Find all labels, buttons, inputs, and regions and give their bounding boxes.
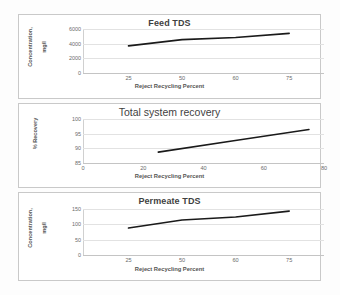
x-axis-tick-label: 0 (81, 165, 84, 171)
y-axis-tick-label: 100 (72, 221, 81, 227)
y-axis-label-total-system-recovery: % Recovery (32, 111, 39, 155)
x-axis-label-permeate-tds: Reject Recycling Percent (19, 266, 320, 272)
chart-title-total-system-recovery: Total system recovery (19, 106, 320, 118)
data-line (129, 211, 290, 228)
x-axis-line (83, 73, 324, 74)
series-line-feed-tds (83, 29, 324, 73)
plot-area-total-system-recovery: 859095100020406080 (83, 119, 324, 163)
y-axis-tick-label: 50 (75, 237, 81, 243)
y-axis-tick-label: 0 (78, 70, 81, 76)
x-axis-tick-label: 75 (286, 75, 292, 81)
y-axis-label-permeate-tds: Concentration, mg/l (20, 198, 48, 258)
series-line-total-system-recovery (83, 119, 324, 163)
y-axis-tick-label: 90 (75, 145, 81, 151)
x-axis-label-total-system-recovery: Reject Recycling Percent (19, 173, 320, 179)
y-axis-tick-label: 6000 (69, 26, 81, 32)
x-axis-tick-label: 60 (261, 165, 267, 171)
y-axis-label-feed-tds: Concentration, mg/l (20, 17, 48, 77)
y-axis-tick-label: 4000 (69, 41, 81, 47)
x-axis-line (83, 163, 324, 164)
x-axis-tick-label: 50 (179, 75, 185, 81)
plot-area-feed-tds: 020004000600025506075 (83, 29, 324, 73)
x-axis-tick-label: 25 (125, 257, 131, 263)
chart-title-permeate-tds: Permeate TDS (19, 196, 320, 206)
y-axis-label-line1: Concentration, (27, 27, 33, 66)
y-axis-tick-label: 85 (75, 160, 81, 166)
chart-title-feed-tds: Feed TDS (19, 18, 320, 28)
y-axis-label-line2: mg/l (41, 222, 47, 234)
y-axis-label-line1: Concentration, (27, 208, 33, 247)
x-axis-tick-label: 60 (233, 75, 239, 81)
x-axis-tick-label: 25 (125, 75, 131, 81)
chart-panel-permeate-tds: Permeate TDS Concentration, mg/l 0501001… (18, 192, 321, 281)
x-axis-tick-label: 60 (233, 257, 239, 263)
x-axis-tick-label: 80 (321, 165, 327, 171)
data-line (129, 33, 290, 45)
figure-canvas: Feed TDS Concentration, mg/l 02000400060… (0, 0, 340, 295)
y-axis-tick-label: 0 (78, 252, 81, 258)
data-line (158, 130, 309, 153)
y-axis-tick-label: 100 (72, 116, 81, 122)
y-axis-label-line2: mg/l (41, 41, 47, 53)
x-axis-label-feed-tds: Reject Recycling Percent (19, 83, 320, 89)
chart-panel-feed-tds: Feed TDS Concentration, mg/l 02000400060… (18, 14, 321, 99)
x-axis-tick-label: 40 (200, 165, 206, 171)
x-axis-tick-label: 75 (286, 257, 292, 263)
y-axis-tick-label: 95 (75, 131, 81, 137)
series-line-permeate-tds (83, 209, 324, 255)
x-axis-line (83, 255, 324, 256)
x-axis-tick-label: 50 (179, 257, 185, 263)
chart-panel-total-system-recovery: Total system recovery % Recovery 8590951… (18, 103, 321, 188)
plot-area-permeate-tds: 05010015025506075 (83, 209, 324, 255)
y-axis-tick-label: 150 (72, 206, 81, 212)
y-axis-tick-label: 2000 (69, 55, 81, 61)
x-axis-tick-label: 20 (140, 165, 146, 171)
